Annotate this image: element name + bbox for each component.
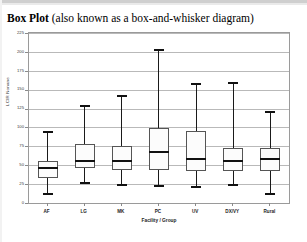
x-axis-tick-mark [47, 203, 48, 206]
x-axis-tick-mark [121, 203, 122, 206]
y-axis-tick-label: 225 [4, 31, 24, 35]
x-axis-tick-mark [269, 203, 270, 206]
page-root: Box Plot (also known as a box-and-whiske… [0, 0, 307, 242]
x-axis-tick-mark [84, 203, 85, 206]
box-plot-item[interactable] [66, 33, 103, 205]
median-line [75, 160, 95, 162]
y-axis-tick-label: 125 [4, 106, 24, 110]
upper-whisker-cap [43, 131, 53, 133]
box-plot-item[interactable] [178, 33, 215, 205]
y-axis-tick-label: 100 [4, 125, 24, 129]
x-axis-tick-mark [158, 203, 159, 206]
box-plot-item[interactable] [140, 33, 177, 205]
figure-title: Box Plot (also known as a box-and-whiske… [7, 8, 302, 24]
box-iqr-rect [186, 131, 206, 170]
x-axis-label: Facility / Group [28, 218, 290, 223]
lower-whisker-cap [265, 193, 275, 195]
whisker-line [121, 96, 122, 184]
y-axis-tick-label: 75 [4, 144, 24, 148]
y-axis-tick-label: 200 [4, 50, 24, 54]
x-axis-tick-label: LG [65, 210, 102, 215]
x-axis-tick-mark [232, 203, 233, 206]
x-axis-tick-label: PC [139, 210, 176, 215]
upper-whisker-cap [117, 95, 127, 97]
box-plot-figure: LCIR Nonane 0255075100125150175200225 AF… [6, 28, 302, 236]
x-axis-tick-mark [195, 203, 196, 206]
upper-whisker-cap [228, 82, 238, 84]
y-axis-tick-label: 25 [4, 182, 24, 186]
upper-whisker-cap [191, 83, 201, 85]
x-axis-tick-label: Rural [251, 210, 288, 215]
box-iqr-rect [149, 128, 169, 170]
scan-artifact-left-edge [0, 0, 2, 242]
x-axis-tick-label: DX/VY [214, 210, 251, 215]
upper-whisker-cap [265, 111, 275, 113]
box-plot-item[interactable] [29, 33, 66, 205]
box-iqr-rect [75, 144, 95, 168]
upper-whisker-cap [154, 49, 164, 51]
lower-whisker-cap [154, 185, 164, 187]
y-axis-tick-label: 150 [4, 87, 24, 91]
figure-title-strong: Box Plot [7, 12, 49, 24]
plot-area [28, 32, 290, 204]
lower-whisker-cap [228, 184, 238, 186]
box-iqr-rect [112, 146, 132, 170]
median-line [149, 151, 169, 153]
upper-whisker-cap [80, 105, 90, 107]
box-plot-item[interactable] [252, 33, 289, 205]
figure-title-rest: (also known as a box-and-whisker diagram… [49, 12, 254, 24]
median-line [260, 158, 280, 160]
lower-whisker-cap [80, 182, 90, 184]
box-plot-item[interactable] [215, 33, 252, 205]
box-iqr-rect [38, 161, 58, 178]
y-axis-tick-label: 0 [4, 201, 24, 205]
box-plot-item[interactable] [103, 33, 140, 205]
x-axis-tick-label: UV [177, 210, 214, 215]
scan-artifact-band-light [0, 3, 307, 5]
lower-whisker-cap [43, 193, 53, 195]
x-axis-tick-label: AF [28, 210, 65, 215]
median-line [38, 167, 58, 169]
lower-whisker-cap [117, 184, 127, 186]
y-axis-tick-label: 175 [4, 69, 24, 73]
median-line [223, 160, 243, 162]
x-axis-tick-label: MK [102, 210, 139, 215]
median-line [186, 158, 206, 160]
lower-whisker-cap [191, 186, 201, 188]
median-line [112, 160, 132, 162]
y-axis-tick-label: 50 [4, 163, 24, 167]
